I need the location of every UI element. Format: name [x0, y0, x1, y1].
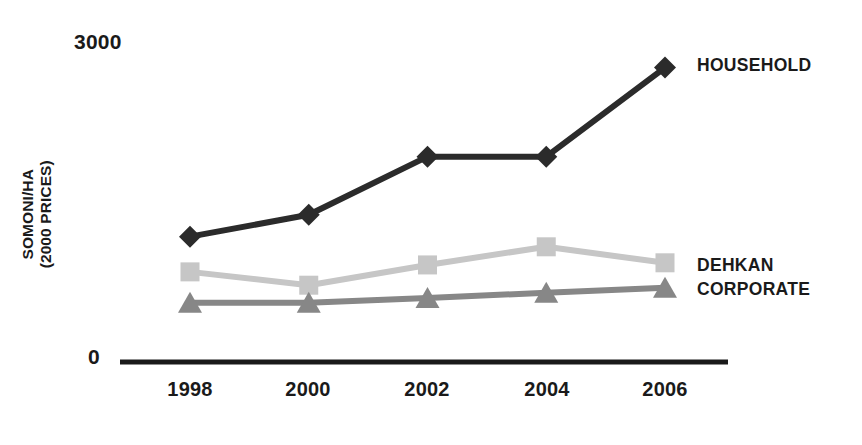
data-point-dehkan-2006	[656, 253, 675, 272]
series-corporate	[178, 277, 677, 313]
x-tick-label-2000: 2000	[268, 378, 348, 401]
x-tick-label-2004: 2004	[507, 378, 587, 401]
series-label-corporate: CORPORATE	[697, 279, 810, 300]
x-tick-label-1998: 1998	[150, 378, 230, 401]
data-point-dehkan-2002	[418, 255, 437, 274]
data-point-household-1998	[179, 226, 201, 248]
x-tick-label-2002: 2002	[387, 378, 467, 401]
series-household	[179, 57, 676, 248]
series-dehkan	[181, 237, 675, 294]
series-label-household: HOUSEHOLD	[697, 55, 812, 76]
data-point-dehkan-2004	[537, 237, 556, 256]
series-label-dehkan: DEHKAN	[697, 255, 774, 276]
chart-container: SOMONI/HA (2000 PRICES) 3000 0 1998 2000…	[0, 0, 862, 445]
data-point-household-2000	[298, 204, 320, 226]
data-point-dehkan-1998	[181, 262, 200, 281]
data-point-household-2002	[417, 146, 439, 168]
x-tick-label-2006: 2006	[625, 378, 705, 401]
